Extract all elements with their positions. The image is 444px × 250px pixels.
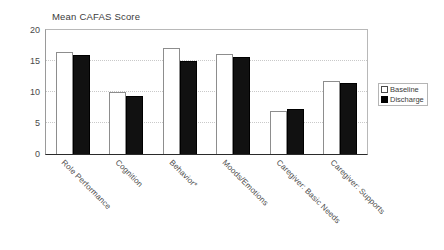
bar-group [207,30,261,154]
bar-group [46,30,100,154]
y-axis-tick-label: 0 [35,149,40,159]
mean-cafas-score-bar-chart: Mean CAFAS Score 05101520 Role Performan… [0,0,444,250]
legend-swatch-discharge-icon [381,96,388,103]
bar-baseline [270,111,287,154]
bar-baseline [216,54,233,154]
x-axis-label: Caregiver: Supports [329,158,387,216]
legend-item-baseline[interactable]: Baseline [381,86,424,94]
y-axis-tick-label: 5 [35,118,40,128]
bar-group [260,30,314,154]
bar-baseline [323,81,340,154]
bar-discharge [73,55,90,154]
bar-discharge [180,61,197,154]
y-axis-tick-label: 15 [30,56,40,66]
bar-discharge [287,109,304,154]
plot-area: 05101520 [45,29,368,155]
legend-label: Discharge [390,96,424,104]
legend-item-discharge[interactable]: Discharge [381,96,424,104]
bar-baseline [163,48,180,154]
chart-legend: BaselineDischarge [378,83,428,106]
bar-discharge [340,83,357,154]
bar-group [100,30,154,154]
bar-baseline [109,92,126,154]
x-axis-label: Behavior* [167,158,199,190]
bar-discharge [126,96,143,154]
x-axis-label: Role Performance [60,158,113,211]
bar-discharge [233,57,250,154]
bar-groups [46,30,367,154]
chart-title: Mean CAFAS Score [52,11,140,22]
y-axis-tick-label: 20 [30,25,40,35]
bar-baseline [56,52,73,154]
x-axis-label: Moods/Emotions [221,158,270,207]
bar-group [153,30,207,154]
bar-group [314,30,368,154]
x-axis-label: Cognition [113,158,144,189]
legend-swatch-baseline-icon [381,86,388,93]
y-axis-tick-label: 10 [30,87,40,97]
legend-label: Baseline [390,86,419,94]
